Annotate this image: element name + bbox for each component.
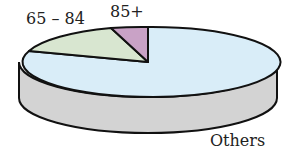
label-85-plus: 85+ [110,4,144,20]
label-65-84: 65 – 84 [26,11,85,27]
label-others: Others [210,133,265,149]
